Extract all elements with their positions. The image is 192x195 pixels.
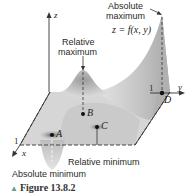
relative-maximum-label-line1: Relative xyxy=(62,37,95,47)
y-axis-label: y xyxy=(178,82,182,92)
x-axis-label: x xyxy=(22,148,26,158)
absolute-maximum-label-line1: Absolute xyxy=(108,1,143,11)
relative-minimum-label: Relative minimum xyxy=(68,157,140,167)
point-c-label: C xyxy=(101,121,108,131)
z-axis-label: z xyxy=(54,10,58,20)
y-tick-label: 1 xyxy=(149,83,154,93)
point-c xyxy=(95,125,99,129)
point-b-label: B xyxy=(87,108,93,118)
caption-marker-icon: ▲ xyxy=(10,184,18,193)
relative-maximum-bump xyxy=(60,70,108,98)
relative-maximum-label-line2: maximum xyxy=(58,47,97,57)
absolute-maximum-label-line2: maximum xyxy=(106,11,145,21)
point-b xyxy=(81,112,85,116)
point-a-label: A xyxy=(56,129,62,139)
absolute-minimum-well xyxy=(40,140,65,170)
caption-text: Figure 13.8.2 xyxy=(20,182,76,193)
figure-caption: ▲Figure 13.8.2 xyxy=(10,182,76,193)
x-tick-label: 1 xyxy=(14,136,19,146)
point-a xyxy=(50,133,54,137)
point-d-label: D xyxy=(164,95,171,105)
function-label: z = f(x, y) xyxy=(112,25,151,35)
absolute-minimum-label: Absolute minimum xyxy=(12,169,86,179)
